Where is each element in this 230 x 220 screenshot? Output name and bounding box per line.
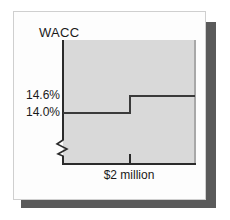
wacc-step-segment-low bbox=[63, 112, 131, 114]
figure-container: WACC 14.6% 14.0% $2 million bbox=[0, 0, 230, 220]
x-axis-tick-2-million bbox=[129, 154, 131, 164]
wacc-step-segment-rise bbox=[129, 95, 131, 114]
y-tick-label-14-6: 14.6% bbox=[17, 89, 60, 102]
chart-title: WACC bbox=[39, 25, 79, 40]
y-tick-label-14-0: 14.0% bbox=[17, 106, 60, 119]
plot-area-right-edge bbox=[194, 40, 196, 164]
x-axis-label: $2 million bbox=[63, 168, 195, 182]
y-axis-break-icon bbox=[54, 137, 72, 159]
wacc-step-segment-high bbox=[129, 95, 195, 97]
y-axis-line-upper bbox=[62, 40, 64, 140]
